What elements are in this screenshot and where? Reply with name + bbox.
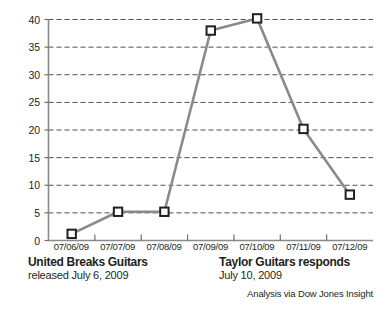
- x-axis-tick-label: 07/07/09: [94, 241, 140, 255]
- data-point-marker: [160, 208, 168, 216]
- data-point-marker: [299, 125, 307, 133]
- annotation-right-subtitle: July 10, 2009: [219, 269, 350, 282]
- x-axis-tick-label: 07/12/09: [327, 241, 373, 255]
- data-point-marker: [67, 230, 75, 238]
- annotation-taylor-guitars-responds: Taylor Guitars responds July 10, 2009: [219, 256, 350, 282]
- annotation-right-title: Taylor Guitars responds: [219, 256, 350, 269]
- chart-credit-line: Analysis via Dow Jones Insight: [247, 288, 373, 299]
- data-point-markers: [67, 14, 354, 238]
- annotation-left-title: United Breaks Guitars: [28, 256, 148, 269]
- data-point-marker: [253, 14, 261, 22]
- data-point-marker: [114, 208, 122, 216]
- chart-plot-area: 0510152025303540 07/06/0907/07/0907/08/0…: [0, 0, 391, 250]
- chart-svg: [0, 0, 391, 250]
- x-axis-tick-label: 07/08/09: [141, 241, 187, 255]
- data-point-marker: [346, 190, 354, 198]
- annotation-united-breaks-guitars: United Breaks Guitars released July 6, 2…: [28, 256, 148, 282]
- x-axis-tick-label: 07/06/09: [48, 241, 94, 255]
- x-axis-ticks: [95, 235, 327, 241]
- x-axis-tick-labels: 07/06/0907/07/0907/08/0907/09/0907/10/09…: [48, 241, 373, 255]
- chart-figure: 0510152025303540 07/06/0907/07/0907/08/0…: [0, 0, 391, 316]
- annotation-left-subtitle: released July 6, 2009: [28, 269, 148, 282]
- x-axis-tick-label: 07/10/09: [234, 241, 280, 255]
- x-axis-tick-label: 07/09/09: [187, 241, 233, 255]
- gridlines: [49, 20, 374, 213]
- x-axis-tick-label: 07/11/09: [280, 241, 326, 255]
- data-point-marker: [207, 26, 215, 34]
